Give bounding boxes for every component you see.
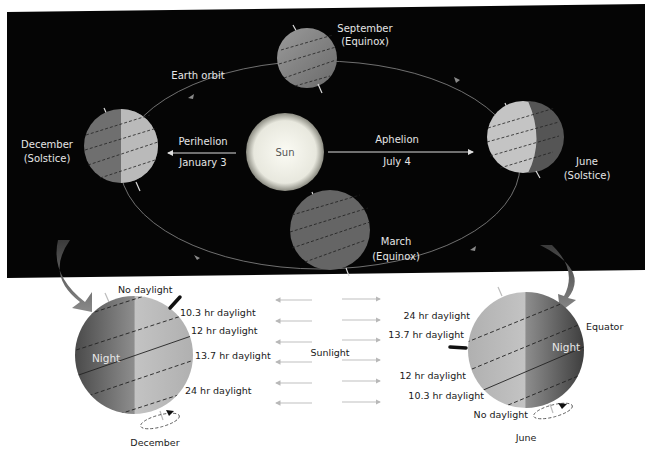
june-caption: June: [515, 432, 537, 443]
june-earth-detail: [450, 287, 600, 450]
june-lat-label-3: 12 hr daylight: [399, 370, 466, 381]
june-lat-label-4: 10.3 hr daylight: [408, 390, 484, 401]
sun-label: Sun: [275, 147, 294, 158]
aphelion-label: Aphelion: [375, 134, 419, 145]
september-event-label: (Equinox): [341, 36, 389, 47]
march-month-label: March: [381, 236, 411, 247]
december-event-label: (Solstice): [24, 153, 71, 164]
march-event-label: (Equinox): [372, 251, 420, 262]
december-lat-label-2: 10.3 hr daylight: [180, 307, 256, 318]
june-month-label: June: [575, 156, 598, 167]
seasons-diagram: Sun Perihelion January 3 Aphelion July 4…: [0, 0, 645, 454]
perihelion-date: January 3: [178, 157, 226, 168]
june-lat-label-5: No daylight: [474, 409, 529, 420]
sunlight-label: Sunlight: [310, 347, 349, 358]
aphelion-date: July 4: [382, 156, 411, 167]
december-night-label: Night: [92, 352, 120, 364]
june-lat-label-2: 13.7 hr daylight: [388, 329, 464, 340]
equator-label: Equator: [586, 321, 623, 332]
december-caption: December: [130, 437, 179, 448]
december-lat-label-1: No daylight: [118, 284, 173, 295]
december-lat-label-5: 24 hr daylight: [185, 385, 252, 396]
perihelion-label: Perihelion: [178, 136, 227, 147]
june-event-label: (Solstice): [564, 170, 611, 181]
earth-orbit-label: Earth orbit: [171, 70, 224, 81]
september-month-label: September: [337, 23, 393, 34]
june-lat-label-1: 24 hr daylight: [403, 310, 470, 321]
december-month-label: December: [21, 139, 74, 150]
june-night-label: Night: [552, 341, 580, 353]
sunlight-arrows-left: [276, 300, 312, 403]
december-lat-label-4: 13.7 hr daylight: [195, 350, 271, 361]
december-lat-label-3: 12 hr daylight: [191, 325, 258, 336]
